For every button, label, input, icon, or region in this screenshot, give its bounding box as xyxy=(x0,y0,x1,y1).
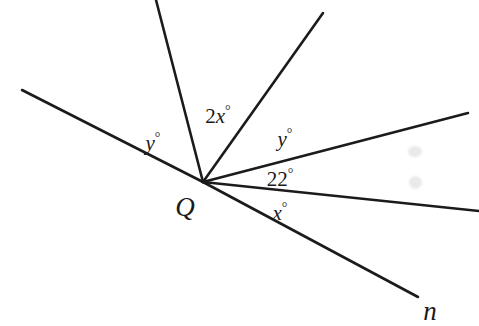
angle-y-right-degree: ° xyxy=(287,126,293,141)
angle-22-value: 22 xyxy=(267,167,288,191)
diagram-canvas xyxy=(0,0,479,326)
angle-x-variable: x xyxy=(273,201,282,225)
angle-2x-variable: x xyxy=(216,104,225,128)
angle-label-2x: 2x° xyxy=(205,104,230,127)
vertex-label-q: Q xyxy=(175,194,195,221)
angle-22-degree: ° xyxy=(288,166,294,181)
angle-label-22: 22° xyxy=(267,167,294,190)
angle-x-degree: ° xyxy=(282,200,288,215)
angle-y-left-degree: ° xyxy=(155,130,161,145)
angle-2x-coefficient: 2 xyxy=(205,104,216,128)
angle-label-y-right: y° xyxy=(278,127,293,150)
angle-y-left-variable: y xyxy=(146,131,155,155)
angle-2x-degree: ° xyxy=(225,103,231,118)
ray-right-lower xyxy=(203,182,479,211)
ray-lower-right-n xyxy=(203,182,418,297)
ray-top-steep xyxy=(156,0,203,182)
ray-right-upper xyxy=(203,113,468,182)
line-label-n: n xyxy=(423,298,437,325)
ray-upper-left xyxy=(22,90,203,182)
angle-label-y-left: y° xyxy=(146,131,161,154)
angle-y-right-variable: y xyxy=(278,127,287,151)
geometry-diagram: 2x° y° y° 22° x° Q n xyxy=(0,0,479,326)
angle-label-x: x° xyxy=(273,201,288,224)
